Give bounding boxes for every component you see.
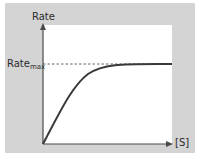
x-axis-arrow-icon	[166, 141, 173, 147]
rate-max-label: Ratemax	[7, 59, 45, 72]
y-axis-arrow-icon	[40, 23, 46, 30]
x-axis-label: [S]	[175, 138, 189, 148]
rate-max-subscript: max	[30, 63, 45, 71]
rate-curve	[43, 64, 172, 144]
rate-max-main: Rate	[7, 58, 30, 69]
chart-svg	[0, 0, 203, 161]
y-axis-label: Rate	[32, 12, 55, 22]
